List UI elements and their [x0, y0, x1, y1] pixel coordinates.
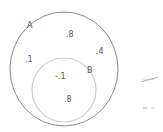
- region-label-a-left: .1: [25, 56, 33, 64]
- venn-circles: [0, 0, 163, 132]
- set-a-label: A: [27, 22, 32, 30]
- region-label-a-top: .8: [66, 31, 74, 39]
- region-label-a-right: .4: [96, 48, 104, 56]
- set-b-label: B: [87, 67, 93, 75]
- region-label-b-lower: .8: [64, 96, 72, 104]
- venn-diagram: A .8 .1 .4 B -.1 .8: [0, 0, 163, 132]
- region-label-b-upper: -.1: [55, 73, 66, 81]
